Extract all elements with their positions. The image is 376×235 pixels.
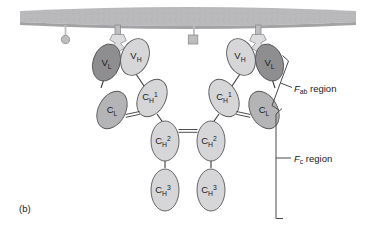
right-anchor-stalk <box>256 25 261 35</box>
square-marker-head <box>188 35 198 44</box>
round-marker-stalk <box>65 25 67 36</box>
cell-membrane <box>20 7 356 29</box>
figure-panel: VL VH CL CH1 <box>0 0 376 235</box>
membrane-band <box>20 7 356 26</box>
square-marker-stalk <box>193 25 195 35</box>
label-fc-region: Fc region <box>294 153 332 165</box>
round-marker-head <box>61 35 69 43</box>
left-anchor-stalk <box>115 25 120 35</box>
panel-label: (b) <box>19 203 31 214</box>
